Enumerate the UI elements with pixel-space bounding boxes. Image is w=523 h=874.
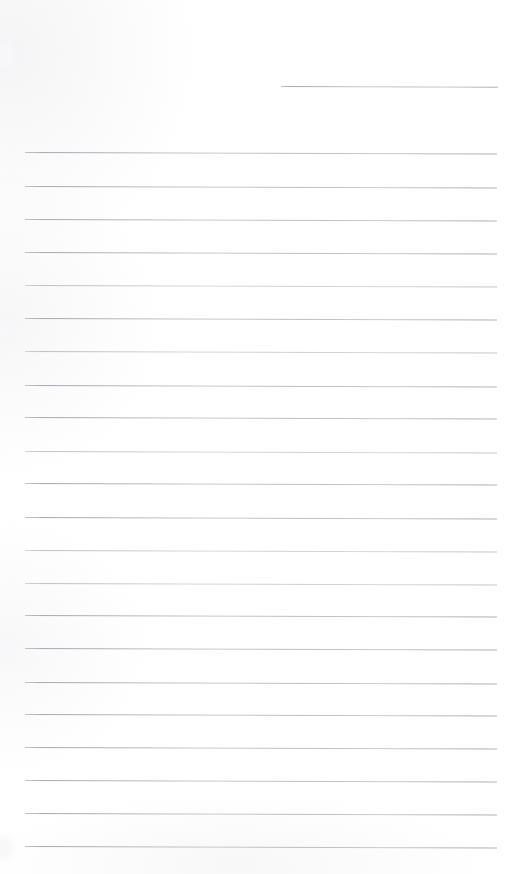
- scan-smudge: [0, 640, 12, 666]
- ruled-line: [25, 517, 497, 519]
- ruled-line: [25, 813, 497, 815]
- ruled-line: [25, 417, 497, 419]
- scanned-page: [0, 0, 523, 874]
- ruled-line: [25, 846, 497, 848]
- scan-smudge: [0, 318, 12, 342]
- ruled-line: [25, 615, 497, 617]
- ruled-line: [25, 714, 497, 716]
- ruled-line: [25, 318, 497, 320]
- ruled-line: [25, 152, 497, 154]
- ruled-line: [25, 682, 497, 684]
- ruled-line-partial: [281, 86, 498, 88]
- ruled-line: [25, 385, 497, 387]
- ruled-line: [25, 483, 497, 485]
- paper-texture: [0, 0, 523, 874]
- ruled-line: [25, 351, 497, 353]
- ruled-line: [25, 780, 497, 782]
- ruled-line: [25, 451, 497, 453]
- scan-smudge: [0, 42, 16, 68]
- ruled-line: [25, 219, 497, 221]
- ruled-line: [25, 648, 497, 650]
- ruled-line: [25, 550, 497, 552]
- ruled-line: [25, 747, 497, 749]
- ruled-line: [25, 186, 497, 188]
- scan-smudge: [0, 836, 14, 860]
- ruled-line: [25, 252, 497, 254]
- ruled-line: [25, 285, 497, 287]
- ruled-line: [25, 583, 497, 585]
